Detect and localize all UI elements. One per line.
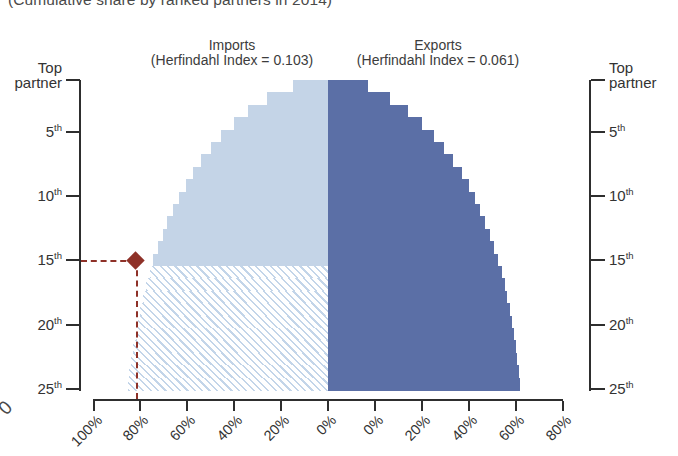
imports-bar-rank-9: [186, 179, 328, 192]
imports-bar-rank-25: [128, 378, 328, 391]
plot-area: [93, 80, 563, 390]
x-tick-7: [421, 401, 423, 411]
imports-bar-rank-5: [221, 130, 328, 143]
x-tick-1: [139, 401, 141, 411]
y-tick-right-15: [591, 259, 605, 261]
exports-bar-rank-14: [328, 241, 494, 254]
y-label-right-25: 25th: [609, 380, 634, 396]
y-tick-left-15: [66, 259, 80, 261]
x-label-40pct-3: 40%: [202, 412, 246, 456]
exports-bar-rank-3: [328, 105, 408, 118]
x-tick-5: [327, 401, 329, 411]
diverging-bars: [93, 80, 563, 390]
exports-herfindahl-index: (Herfindahl Index = 0.061): [333, 53, 543, 68]
imports-bar-rank-20: [138, 316, 328, 329]
imports-bar-rank-17: [146, 278, 328, 291]
exports-bar-rank-7: [328, 154, 453, 167]
x-label-60pct-2: 60%: [155, 412, 199, 456]
imports-bar-rank-6: [211, 142, 328, 155]
y-tick-left-1: [66, 79, 80, 81]
x-tick-9: [515, 401, 517, 411]
x-tick-0: [93, 401, 95, 411]
x-label-40pct-8: 40%: [436, 412, 480, 456]
y-label-right-1: Toppartner: [609, 60, 657, 91]
exports-bar-rank-23: [328, 353, 517, 366]
exports-bar-rank-6: [328, 142, 444, 155]
x-label-60pct-9: 60%: [483, 412, 527, 456]
y-tick-right-20: [591, 324, 605, 326]
chart-root: (Cumulative share by ranked partners in …: [0, 0, 678, 456]
exports-bar-rank-22: [328, 340, 516, 353]
imports-bar-rank-14: [158, 241, 328, 254]
exports-bar-rank-13: [328, 229, 490, 242]
x-label-0pct-5: 0%: [295, 412, 339, 456]
y-label-right-15: 15th: [609, 251, 634, 267]
y-tick-left-10: [66, 195, 80, 197]
exports-bar-rank-2: [328, 92, 390, 105]
x-label-20pct-7: 20%: [389, 412, 433, 456]
x-tick-4: [280, 401, 282, 411]
y-tick-left-5: [66, 131, 80, 133]
y-label-left-5: 5th: [46, 123, 62, 139]
exports-bar-rank-24: [328, 365, 519, 378]
imports-header: Imports (Herfindahl Index = 0.103): [137, 38, 327, 67]
imports-bar-rank-2: [267, 92, 328, 105]
x-label-80pct-1: 80%: [108, 412, 152, 456]
exports-bar-rank-5: [328, 130, 434, 143]
exports-bar-rank-9: [328, 179, 469, 192]
exports-header: Exports (Herfindahl Index = 0.061): [333, 38, 543, 67]
y-tick-right-1: [591, 79, 605, 81]
y-label-right-10: 10th: [609, 187, 634, 203]
x-label-80pct-10: 80%: [530, 412, 574, 456]
exports-bar-rank-25: [328, 378, 520, 391]
exports-bar-rank-10: [328, 192, 475, 205]
imports-bar-rank-11: [173, 204, 328, 217]
imports-bar-rank-19: [140, 303, 328, 316]
x-tick-6: [374, 401, 376, 411]
imports-bar-rank-3: [248, 105, 328, 118]
cropped-neighbour-tick-label: 0: [0, 397, 17, 420]
imports-header-title: Imports: [137, 38, 327, 53]
x-tick-10: [562, 401, 564, 411]
exports-bar-rank-12: [328, 216, 485, 229]
exports-bar-rank-11: [328, 204, 480, 217]
y-label-right-5: 5th: [609, 123, 625, 139]
imports-bar-rank-16: [150, 266, 328, 279]
exports-bar-rank-20: [328, 316, 512, 329]
imports-bar-rank-8: [193, 167, 328, 180]
y-label-left-10: 10th: [37, 187, 62, 203]
x-tick-3: [233, 401, 235, 411]
imports-bar-rank-13: [163, 229, 328, 242]
exports-bar-rank-4: [328, 117, 422, 130]
imports-bar-rank-1: [293, 80, 328, 93]
x-label-0pct-6: 0%: [342, 412, 386, 456]
exports-bar-rank-15: [328, 254, 498, 267]
x-label-100pct-0: 100%: [61, 412, 105, 456]
y-axis-left-spine: [79, 80, 81, 391]
exports-bar-rank-18: [328, 291, 507, 304]
y-tick-left-20: [66, 324, 80, 326]
y-tick-left-25: [66, 388, 80, 390]
imports-bar-rank-22: [133, 340, 328, 353]
y-label-left-20: 20th: [37, 316, 62, 332]
exports-bar-rank-8: [328, 167, 462, 180]
exports-bar-rank-1: [328, 80, 368, 93]
chart-subtitle: (Cumulative share by ranked partners in …: [8, 0, 332, 9]
imports-bar-rank-4: [234, 117, 328, 130]
imports-herfindahl-index: (Herfindahl Index = 0.103): [137, 53, 327, 68]
imports-bar-rank-18: [143, 291, 328, 304]
imports-bar-rank-12: [167, 216, 328, 229]
y-axis-right-spine: [589, 80, 591, 391]
y-tick-right-25: [591, 388, 605, 390]
exports-bar-rank-19: [328, 303, 510, 316]
x-tick-8: [468, 401, 470, 411]
y-label-left-1: Toppartner: [14, 60, 62, 91]
annotation-vertical-dashed-line: [136, 260, 138, 399]
exports-bar-rank-17: [328, 278, 505, 291]
x-label-20pct-4: 20%: [249, 412, 293, 456]
imports-bar-rank-24: [129, 365, 328, 378]
exports-bar-rank-16: [328, 266, 502, 279]
exports-header-title: Exports: [333, 38, 543, 53]
y-tick-right-10: [591, 195, 605, 197]
y-label-left-15: 15th: [37, 251, 62, 267]
